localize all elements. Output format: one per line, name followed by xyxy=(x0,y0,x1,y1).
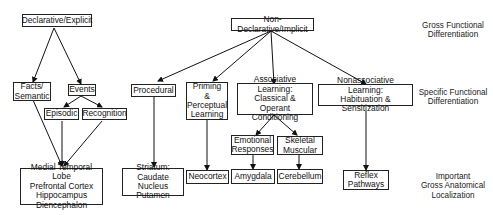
node-medial-temporal-lobe: Medial Temporal Lobe Prefrontal Cortex H… xyxy=(20,168,103,205)
node-priming-perceptual-learning: Priming & Perceptual Learning xyxy=(186,82,228,120)
node-events: Events xyxy=(68,84,96,96)
node-amygdala: Amygdala xyxy=(231,169,275,184)
node-skeletal-muscular: Skeletal Muscular xyxy=(277,136,323,155)
node-cerebellum: Cerebellum xyxy=(277,169,323,184)
node-procedural: Procedural xyxy=(131,84,176,97)
level-label-specific-functional: Specific Functional Differentiation xyxy=(414,88,492,107)
node-neocortex: Neocortex xyxy=(186,170,229,184)
node-recognition: Recognition xyxy=(82,108,127,120)
node-associative-learning: Associative Learning: Classical & Operan… xyxy=(237,83,313,115)
node-episodic: Episodic xyxy=(44,108,79,120)
node-facts-semantic: Facts/ Semantic xyxy=(13,82,51,101)
node-nonassociative-learning: Nonassociative Learning: Habituation & S… xyxy=(318,84,413,106)
level-label-gross-functional: Gross Functional Differentiation xyxy=(414,21,492,40)
node-declarative-explicit: Declarative/Explicit xyxy=(22,14,92,27)
level-label-anatomical: Important Gross Anatomical Localization xyxy=(414,172,492,200)
node-emotional-responses: Emotional Responses xyxy=(231,135,274,155)
node-striatum: Striatum: Caudate Nucleus Putamen xyxy=(122,168,184,196)
node-non-declarative-implicit: Non-Declarative/Implicit xyxy=(231,18,314,31)
node-reflex-pathways: Reflex Pathways xyxy=(343,170,389,190)
